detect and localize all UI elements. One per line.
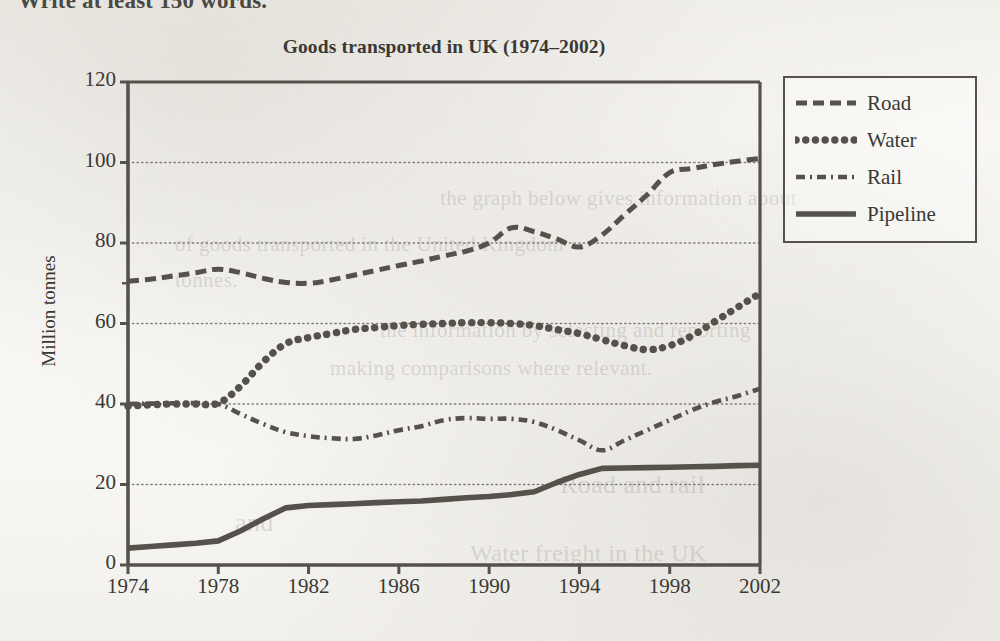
- y-tick-label-100: 100: [72, 148, 116, 173]
- y-tick-label-20: 20: [72, 470, 116, 495]
- chart-legend: RoadWaterRailPipeline: [783, 76, 977, 243]
- legend-item-water[interactable]: Water: [795, 123, 967, 157]
- legend-swatch-road-icon: [795, 97, 857, 109]
- y-axis-label: Million tonnes: [38, 231, 60, 391]
- x-tick-label-1994: 1994: [539, 574, 619, 599]
- series-line-road: [128, 158, 760, 283]
- x-tick-label-1974: 1974: [88, 574, 168, 599]
- x-tick-label-1978: 1978: [178, 574, 258, 599]
- x-tick-label-2002: 2002: [720, 574, 800, 599]
- y-tick-label-80: 80: [72, 228, 116, 253]
- chart-figure: Goods transported in UK (1974–2002) Mill…: [0, 0, 1000, 641]
- x-tick-label-1990: 1990: [449, 574, 529, 599]
- legend-swatch-pipeline-icon: [795, 208, 857, 220]
- chart-title: Goods transported in UK (1974–2002): [128, 36, 760, 58]
- legend-item-pipeline[interactable]: Pipeline: [795, 197, 967, 231]
- legend-label-rail: Rail: [867, 167, 902, 188]
- legend-label-road: Road: [867, 93, 911, 114]
- legend-item-road[interactable]: Road: [795, 86, 967, 120]
- legend-label-water: Water: [867, 130, 917, 151]
- y-tick-label-60: 60: [72, 309, 116, 334]
- y-tick-label-40: 40: [72, 389, 116, 414]
- y-tick-label-120: 120: [72, 67, 116, 92]
- x-tick-label-1982: 1982: [269, 574, 349, 599]
- x-tick-label-1998: 1998: [630, 574, 710, 599]
- legend-swatch-water-icon: [795, 134, 857, 146]
- legend-swatch-rail-icon: [795, 171, 857, 183]
- x-tick-label-1986: 1986: [359, 574, 439, 599]
- legend-item-rail[interactable]: Rail: [795, 160, 967, 194]
- series-line-pipeline: [128, 465, 760, 548]
- legend-label-pipeline: Pipeline: [867, 204, 936, 225]
- y-tick-label-0: 0: [72, 550, 116, 575]
- y-axis-tick-labels: 020406080100120: [66, 0, 116, 641]
- series-line-water: [128, 293, 760, 406]
